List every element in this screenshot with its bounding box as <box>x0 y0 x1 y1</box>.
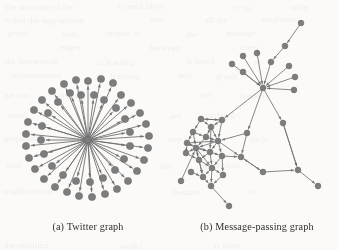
graph-node-leaf <box>97 75 104 82</box>
graph-node-leaf <box>63 188 70 195</box>
graph-node <box>190 129 196 135</box>
edge-arrowhead <box>211 137 214 140</box>
twitter-graph-svg <box>0 0 176 215</box>
graph-node-leaf <box>136 109 143 116</box>
graph-edge <box>283 124 296 166</box>
graph-node-leaf <box>84 77 91 84</box>
graph-node <box>315 183 321 189</box>
graph-edge <box>248 89 262 129</box>
graph-node-leaf <box>51 183 58 190</box>
edge-arrowhead <box>295 163 298 166</box>
graph-node-leaf <box>22 142 29 149</box>
panel-b-caption: (b) Message-passing graph <box>176 221 338 232</box>
edge-arrowhead <box>221 168 224 171</box>
graph-node-leaf <box>72 76 79 83</box>
graph-node-leaf <box>86 178 93 185</box>
graph-node-leaf <box>72 177 79 184</box>
graph-node <box>238 154 244 160</box>
edge-arrowhead <box>267 87 270 90</box>
graph-edge <box>182 152 195 180</box>
graph-node-leaf <box>101 190 108 197</box>
graph-node-leaf <box>117 91 124 98</box>
graph-node <box>295 167 301 173</box>
graph-edge <box>299 171 315 184</box>
graph-node-leaf <box>66 89 73 96</box>
graph-node <box>203 134 209 140</box>
graph-edge <box>264 63 270 84</box>
graph-node-leaf <box>88 193 95 200</box>
nodes-group <box>178 20 321 209</box>
graph-node-leaf <box>144 144 151 151</box>
graph-node-hub <box>85 137 91 143</box>
graph-edge <box>267 88 292 90</box>
graph-node <box>291 87 297 93</box>
edge-arrowhead <box>200 145 203 148</box>
edge-arrowhead <box>234 155 237 158</box>
graph-node-leaf <box>48 87 55 94</box>
graph-node <box>282 43 288 49</box>
graph-node-leaf <box>40 175 47 182</box>
edge-arrowhead <box>215 152 218 155</box>
panel-twitter-graph <box>0 0 176 215</box>
graph-node-leaf <box>126 128 133 135</box>
graph-edge <box>212 187 226 203</box>
graph-node-leaf <box>48 162 55 169</box>
edge-arrowhead <box>33 123 37 126</box>
graph-node-leaf <box>22 130 29 137</box>
graph-edge <box>244 159 261 171</box>
graph-node-leaf <box>121 115 128 122</box>
graph-node <box>286 63 292 69</box>
graph-node <box>219 117 225 123</box>
graph-node <box>198 116 204 122</box>
panel-a-caption: (a) Twitter graph <box>0 221 176 232</box>
graph-node-leaf <box>31 165 38 172</box>
graph-node <box>184 140 190 146</box>
graph-node-leaf <box>30 106 37 113</box>
edge-arrowhead <box>140 135 143 138</box>
graph-node-leaf <box>24 118 31 125</box>
graph-node <box>226 203 232 209</box>
graph-node-leaf <box>113 185 120 192</box>
edge-arrowhead <box>87 86 90 89</box>
graph-node-leaf <box>75 192 82 199</box>
edge-arrowhead <box>291 169 294 172</box>
graph-node <box>200 174 206 180</box>
graph-node-leaf <box>133 167 140 174</box>
graph-node <box>188 169 194 175</box>
graph-edge <box>219 142 237 155</box>
edge-arrowhead <box>46 139 49 142</box>
edge-arrowhead <box>121 132 125 135</box>
edge-arrowhead <box>72 98 75 102</box>
graph-node <box>292 74 298 80</box>
graph-node <box>208 183 214 189</box>
graph-node-leaf <box>100 96 107 103</box>
graph-node-leaf <box>120 155 127 162</box>
edge-arrowhead <box>101 185 104 189</box>
edge-arrowhead <box>264 81 267 84</box>
edge-arrowhead <box>77 172 80 176</box>
graph-node <box>244 130 250 136</box>
graph-node-leaf <box>38 122 45 129</box>
graph-edge <box>225 89 262 118</box>
graph-node-leaf <box>37 136 44 143</box>
graph-node <box>196 157 202 163</box>
graph-node <box>254 50 260 56</box>
graph-node <box>229 61 235 67</box>
graph-node-leaf <box>145 132 152 139</box>
graph-edge <box>287 24 300 42</box>
message-passing-graph-svg <box>176 0 338 215</box>
nodes-group <box>22 75 152 200</box>
graph-node <box>240 53 246 59</box>
figure-container: (a) Twitter graph (b) Message-passing gr… <box>0 0 338 250</box>
edge-arrowhead <box>210 179 213 182</box>
graph-node-leaf <box>77 91 84 98</box>
graph-node-leaf <box>99 174 106 181</box>
graph-node-leaf <box>112 104 119 111</box>
edge-arrowhead <box>218 134 221 137</box>
edge-arrowhead <box>135 156 139 159</box>
edge-arrowhead <box>215 118 218 121</box>
graph-node-leaf <box>60 80 67 87</box>
edge-arrowhead <box>99 105 102 109</box>
edge-arrowhead <box>248 126 251 129</box>
graph-node-leaf <box>44 109 51 116</box>
